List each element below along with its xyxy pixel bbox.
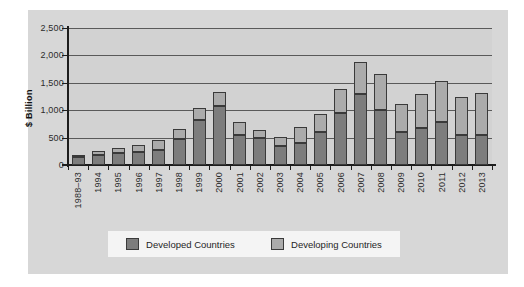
legend-label: Developed Countries — [146, 239, 235, 250]
bar-segment-developing — [455, 97, 468, 135]
y-tick-label: 1,000 — [40, 105, 64, 115]
y-axis-line — [67, 26, 69, 167]
bar-segment-developed — [233, 135, 246, 165]
legend-item[interactable]: Developed Countries — [126, 238, 235, 250]
x-tick-mark — [472, 166, 473, 170]
bar-segment-developing — [395, 104, 408, 133]
bar-segment-developed — [374, 110, 387, 165]
x-tick-mark — [129, 166, 130, 170]
bar-stack — [213, 28, 226, 165]
x-category-label: 1999 — [194, 172, 204, 193]
x-category-label: 2001 — [235, 172, 245, 193]
x-tick-mark — [169, 166, 170, 170]
bar-stack — [374, 28, 387, 165]
bar-segment-developing — [435, 81, 448, 122]
x-tick-mark — [209, 166, 210, 170]
bar-segment-developed — [253, 138, 266, 165]
bar-segment-developing — [354, 62, 367, 94]
bar-segment-developed — [354, 94, 367, 165]
bar-segment-developed — [455, 135, 468, 165]
x-category-label: 2010 — [416, 172, 426, 193]
chart-figure: 05001,0001,5002,0002,500 $ Billion 1988–… — [0, 0, 524, 287]
bar-segment-developed — [294, 143, 307, 165]
x-tick-mark — [68, 166, 69, 170]
bar-stack — [334, 28, 347, 165]
bar-segment-developing — [213, 92, 226, 106]
bar-segment-developed — [173, 139, 186, 165]
y-tick-label: 2,500 — [40, 23, 64, 33]
x-category-label: 2005 — [315, 172, 325, 193]
bar-segment-developing — [112, 148, 125, 153]
bar-segment-developing — [132, 145, 145, 153]
bar-segment-developed — [395, 132, 408, 165]
bar-segment-developing — [173, 129, 186, 140]
bar-stack — [193, 28, 206, 165]
bar-stack — [415, 28, 428, 165]
x-category-label: 2006 — [336, 172, 346, 193]
x-category-label: 1988–93 — [73, 172, 83, 208]
x-category-label: 2007 — [356, 172, 366, 193]
bar-stack — [435, 28, 448, 165]
bar-stack — [233, 28, 246, 165]
x-tick-mark — [270, 166, 271, 170]
x-category-label: 2013 — [477, 172, 487, 193]
bar-segment-developing — [314, 114, 327, 132]
x-tick-mark — [290, 166, 291, 170]
chart-legend: Developed CountriesDeveloping Countries — [108, 231, 400, 257]
bar-segment-developing — [294, 127, 307, 142]
x-category-label: 1994 — [93, 172, 103, 193]
bar-stack — [455, 28, 468, 165]
x-category-label: 1997 — [154, 172, 164, 193]
bar-stack — [92, 28, 105, 165]
x-tick-mark — [492, 166, 493, 170]
bar-stack — [395, 28, 408, 165]
bar-segment-developed — [415, 128, 428, 165]
x-tick-mark — [351, 166, 352, 170]
bar-segment-developed — [475, 135, 488, 165]
bar-segment-developing — [72, 155, 85, 157]
bar-segment-developing — [92, 151, 105, 155]
legend-swatch-developing — [271, 238, 284, 250]
bar-stack — [253, 28, 266, 165]
bar-segment-developed — [334, 113, 347, 165]
x-tick-mark — [411, 166, 412, 170]
bar-segment-developed — [72, 157, 85, 165]
legend-item[interactable]: Developing Countries — [271, 238, 382, 250]
bar-segment-developing — [152, 140, 165, 150]
bar-stack — [112, 28, 125, 165]
bar-segment-developing — [334, 89, 347, 113]
bar-stack — [152, 28, 165, 165]
x-category-label: 1998 — [174, 172, 184, 193]
bar-stack — [132, 28, 145, 165]
x-tick-mark — [189, 166, 190, 170]
bar-segment-developed — [132, 152, 145, 165]
bar-stack — [274, 28, 287, 165]
bar-segment-developed — [152, 150, 165, 165]
bar-segment-developed — [112, 153, 125, 165]
x-category-label: 1995 — [113, 172, 123, 193]
bar-stack — [173, 28, 186, 165]
bar-segment-developing — [475, 93, 488, 135]
x-tick-mark — [230, 166, 231, 170]
bar-segment-developed — [435, 122, 448, 165]
x-tick-mark — [371, 166, 372, 170]
bar-segment-developing — [415, 94, 428, 129]
legend-label: Developing Countries — [291, 239, 382, 250]
bar-stack — [314, 28, 327, 165]
bar-segment-developed — [92, 155, 105, 165]
x-tick-mark — [108, 166, 109, 170]
x-category-label: 2002 — [255, 172, 265, 193]
x-tick-mark — [310, 166, 311, 170]
x-tick-mark — [330, 166, 331, 170]
bar-segment-developed — [314, 132, 327, 165]
x-tick-mark — [452, 166, 453, 170]
x-category-label: 2011 — [437, 172, 447, 192]
bar-segment-developed — [193, 120, 206, 165]
bar-segment-developed — [213, 106, 226, 165]
bar-stack — [294, 28, 307, 165]
x-tick-mark — [250, 166, 251, 170]
x-tick-mark — [431, 166, 432, 170]
bar-segment-developing — [233, 122, 246, 134]
x-tick-mark — [149, 166, 150, 170]
x-category-label: 2012 — [457, 172, 467, 193]
